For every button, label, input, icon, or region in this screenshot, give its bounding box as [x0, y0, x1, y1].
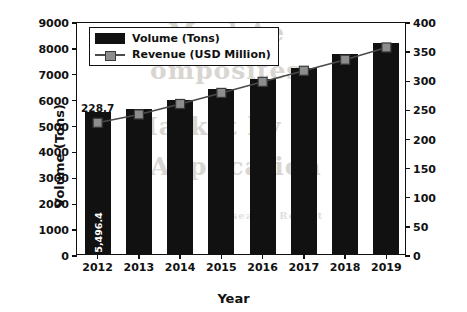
revenue-marker-2014: [176, 99, 185, 108]
chart-canvas: Merl Ae omposites Market by Application …: [0, 0, 467, 312]
revenue-marker-2017: [299, 66, 308, 75]
x-axis-tick-label: 2014: [165, 261, 196, 274]
legend-label-volume: Volume (Tons): [132, 32, 220, 45]
y-axis-left-tick-label: 8000: [38, 42, 69, 55]
y-axis-left-tick-label: 9000: [38, 17, 69, 30]
y-axis-left-tick-label: 7000: [38, 68, 69, 81]
legend-item-volume: Volume (Tons): [95, 32, 271, 45]
y-axis-left-tick-label: 0: [61, 250, 69, 263]
y-axis-right-tick-label: 300: [413, 75, 436, 88]
y-axis-right-tick-label: 150: [413, 162, 436, 175]
chart-legend: Volume (Tons) Revenue (USD Million): [89, 27, 279, 66]
y-axis-right-tick-label: 350: [413, 46, 436, 59]
legend-bar-swatch-icon: [95, 33, 125, 44]
revenue-marker-2016: [258, 77, 267, 86]
y-axis-right-tick-label: 100: [413, 191, 436, 204]
point-value-label: 228.7: [81, 102, 114, 114]
revenue-marker-2015: [217, 88, 226, 97]
y-axis-right-tick-label: 200: [413, 133, 436, 146]
y-axis-right-tick-label: 50: [413, 220, 428, 233]
legend-label-revenue: Revenue (USD Million): [132, 48, 271, 61]
y-axis-left-tick-label: 5000: [38, 120, 69, 133]
y-axis-right-tick-label: 250: [413, 104, 436, 117]
x-axis-tick-label: 2013: [124, 261, 155, 274]
x-axis-tick-label: 2012: [82, 261, 113, 274]
revenue-marker-2013: [134, 110, 143, 119]
y-axis-left-tick-label: 6000: [38, 94, 69, 107]
legend-line-marker-icon: [95, 49, 125, 60]
y-axis-right-tick-label: 400: [413, 17, 436, 30]
y-axis-right-tick-label: 0: [413, 250, 421, 263]
y-axis-left-tick-label: 1000: [38, 224, 69, 237]
plot-area: 0100020003000400050006000700080009000 05…: [76, 22, 406, 255]
y-axis-left-tick-label: 2000: [38, 198, 69, 211]
revenue-marker-2018: [341, 55, 350, 64]
x-axis-tick-label: 2017: [289, 261, 320, 274]
revenue-marker-2019: [382, 43, 391, 52]
x-axis-title: Year: [0, 291, 467, 306]
x-axis-tick-label: 2016: [247, 261, 278, 274]
y-axis-left-tick-label: 3000: [38, 172, 69, 185]
legend-item-revenue: Revenue (USD Million): [95, 48, 271, 61]
revenue-marker-2012: [93, 118, 102, 127]
x-axis-tick-label: 2018: [330, 261, 361, 274]
x-axis-tick-label: 2015: [206, 261, 237, 274]
y-axis-left-tick-label: 4000: [38, 146, 69, 159]
x-axis-tick-label: 2019: [371, 261, 402, 274]
